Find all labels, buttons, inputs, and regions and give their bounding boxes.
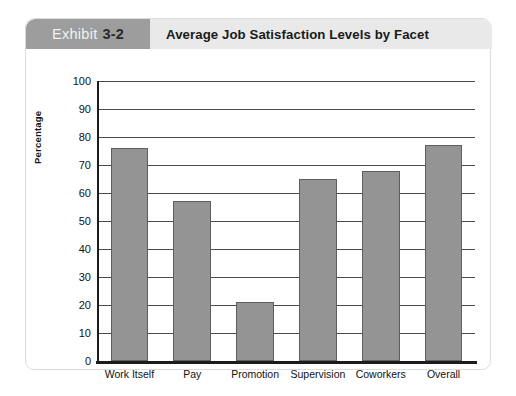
x-tick-label: Pay [183, 368, 201, 380]
bar-coworkers [362, 171, 400, 361]
exhibit-number: 3-2 [103, 26, 125, 42]
bar-overall [425, 145, 463, 361]
bar-work-itself [111, 148, 149, 361]
y-tick-label: 70 [79, 159, 91, 171]
exhibit-label: Exhibit [52, 26, 98, 42]
y-tick-label: 50 [79, 215, 91, 227]
y-tick-label: 10 [79, 327, 91, 339]
exhibit-header: Exhibit 3-2 Average Job Satisfaction Lev… [26, 19, 492, 49]
x-axis-line [96, 361, 477, 364]
y-tick-label: 30 [79, 271, 91, 283]
exhibit-number-tab: Exhibit 3-2 [26, 19, 150, 49]
chart-body: Percentage 0102030405060708090100 Work I… [26, 49, 492, 370]
x-tick-label: Supervision [290, 368, 345, 380]
y-axis-title: Percentage [32, 111, 43, 164]
bar-promotion [236, 302, 274, 361]
x-tick-label: Promotion [231, 368, 279, 380]
y-tick-label: 60 [79, 187, 91, 199]
bar-supervision [299, 179, 337, 361]
y-tick-label: 100 [73, 75, 91, 87]
x-tick-label: Overall [427, 368, 460, 380]
exhibit-card: Exhibit 3-2 Average Job Satisfaction Lev… [25, 18, 491, 370]
chart-title: Average Job Satisfaction Levels by Facet [166, 19, 429, 49]
x-tick-label: Work Itself [105, 368, 154, 380]
y-tick-label: 80 [79, 131, 91, 143]
bars-layer [98, 81, 475, 361]
x-tick-label: Coworkers [356, 368, 406, 380]
y-tick-label: 0 [85, 355, 91, 367]
bar-pay [173, 201, 211, 361]
y-tick-label: 90 [79, 103, 91, 115]
plot-area: 0102030405060708090100 Work ItselfPayPro… [98, 81, 475, 361]
y-tick-label: 20 [79, 299, 91, 311]
y-tick-label: 40 [79, 243, 91, 255]
